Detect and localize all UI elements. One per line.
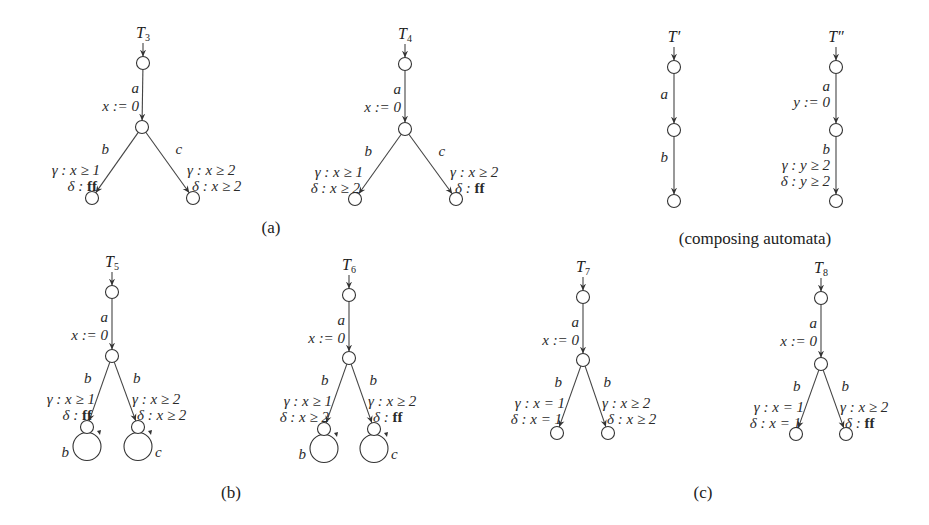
caption-a: (a) bbox=[262, 218, 281, 237]
T3-edge-right-action: c bbox=[176, 141, 183, 157]
T8-edge-left-action: b bbox=[793, 378, 801, 394]
T-double-prime-edge-1-label-2: δ : y ≥ 2 bbox=[781, 173, 831, 189]
T7-edge-right-gamma: γ : x ≥ 2 bbox=[602, 395, 651, 411]
T4-edge-left-gamma: γ : x ≥ 1 bbox=[315, 164, 363, 180]
T4-edge-left-action: b bbox=[365, 143, 373, 159]
T5-state-3-loop-arrow-icon bbox=[148, 430, 152, 435]
caption-b: (b) bbox=[221, 483, 241, 502]
T6-state-3-loop bbox=[360, 435, 388, 463]
T3-edge-a-action: a bbox=[132, 80, 140, 96]
T3-edge-right-gamma: γ : x ≥ 2 bbox=[187, 162, 236, 178]
T6-state-3-loop-label: c bbox=[391, 446, 398, 462]
caption-c: (c) bbox=[694, 483, 713, 502]
T-double-prime-title: T″ bbox=[828, 28, 844, 45]
T6-edge-right-gamma: γ : x ≥ 2 bbox=[368, 393, 417, 409]
T6-edge-left-delta: δ : x ≥ 2 bbox=[280, 409, 330, 425]
T3-state-1 bbox=[136, 121, 149, 134]
T6-state-2-loop-label: b bbox=[299, 446, 307, 462]
T6-state-0 bbox=[343, 289, 356, 302]
diagram-canvas: T3ax := 0bγ : x ≥ 1δ : ffcγ : x ≥ 2δ : x… bbox=[0, 0, 929, 525]
T4-edge-a-action: a bbox=[394, 81, 402, 97]
T5-edge-left-delta: δ : ff bbox=[63, 407, 93, 423]
T6-state-3-loop-arrow-icon bbox=[384, 432, 388, 437]
T6-state-1 bbox=[343, 352, 356, 365]
T8-edge-right-action: b bbox=[842, 378, 850, 394]
T5-state-1 bbox=[106, 350, 119, 363]
T-prime-state-2 bbox=[668, 195, 681, 208]
T-prime-edge-1-label-0: b bbox=[661, 149, 669, 165]
T-prime-state-1 bbox=[668, 124, 681, 137]
T8-title: T8 bbox=[814, 259, 828, 278]
T6-edge-a-reset: x := 0 bbox=[307, 330, 345, 346]
T7-edge-left-delta: δ : x = 1 bbox=[511, 411, 562, 427]
T7-state-3 bbox=[602, 427, 615, 440]
T8-edge-a-reset: x := 0 bbox=[779, 333, 817, 349]
T5-state-2-loop-label: b bbox=[62, 444, 70, 460]
T7-state-1 bbox=[577, 354, 590, 367]
T7-title: T7 bbox=[576, 258, 590, 277]
edges-layer bbox=[73, 43, 844, 463]
T6-edge-left-gamma: γ : x ≥ 1 bbox=[284, 393, 332, 409]
T5-state-0 bbox=[106, 286, 119, 299]
T7-edge-left-gamma: γ : x = 1 bbox=[515, 395, 565, 411]
T6-state-2-loop-arrow-icon bbox=[334, 432, 338, 437]
T5-edge-a-action: a bbox=[101, 309, 109, 325]
T6-edge-right-action: b bbox=[370, 372, 378, 388]
T4-edge-a-reset: x := 0 bbox=[363, 99, 401, 115]
T4-edge-right-delta: δ : ff bbox=[455, 180, 485, 196]
nodes-layer bbox=[81, 57, 853, 441]
T3-state-0 bbox=[137, 57, 150, 70]
T-double-prime-state-2 bbox=[830, 195, 843, 208]
T4-title: T4 bbox=[398, 25, 412, 44]
T-prime-title: T′ bbox=[668, 28, 681, 45]
T7-edge-right-delta: δ : x ≥ 2 bbox=[607, 411, 657, 427]
T5-edge-right-gamma: γ : x ≥ 2 bbox=[132, 391, 181, 407]
T5-edge-right-delta: δ : x ≥ 2 bbox=[137, 407, 187, 423]
T3-edge-a bbox=[142, 69, 143, 120]
T7-edge-a-action: a bbox=[572, 314, 580, 330]
T7-edge-left-action: b bbox=[555, 374, 563, 390]
T6-edge-left-action: b bbox=[321, 372, 329, 388]
T-double-prime-edge-1-label-0: b bbox=[823, 141, 831, 157]
T-double-prime-state-0 bbox=[830, 61, 843, 74]
T8-edge-left-delta: δ : x = 1 bbox=[750, 415, 801, 431]
T5-edge-right-action: b bbox=[133, 370, 141, 386]
T4-edge-right-action: c bbox=[439, 143, 446, 159]
T5-edge-left-gamma: γ : x ≥ 1 bbox=[47, 391, 95, 407]
T8-edge-a-action: a bbox=[810, 315, 818, 331]
T-prime-edge-0-label-0: a bbox=[661, 86, 669, 102]
T5-title: T5 bbox=[105, 253, 119, 272]
T5-state-3-loop-label: c bbox=[155, 444, 162, 460]
T4-edge-left-delta: δ : x ≥ 2 bbox=[311, 180, 361, 196]
T6-state-2-loop bbox=[310, 435, 338, 463]
T-double-prime-edge-1-label-1: γ : y ≥ 2 bbox=[782, 157, 831, 173]
T7-edge-right-action: b bbox=[604, 374, 612, 390]
T5-state-3-loop bbox=[124, 433, 152, 461]
T3-edge-left-delta: δ : ff bbox=[68, 178, 98, 194]
T4-edge-right-gamma: γ : x ≥ 2 bbox=[450, 164, 499, 180]
T5-state-2-loop-arrow-icon bbox=[97, 430, 101, 435]
T5-state-2-loop bbox=[73, 433, 101, 461]
T5-edge-a-reset: x := 0 bbox=[70, 327, 108, 343]
T4-state-0 bbox=[399, 58, 412, 71]
T5-edge-left-action: b bbox=[84, 370, 92, 386]
T6-edge-a-action: a bbox=[338, 312, 346, 328]
T4-edge-right bbox=[409, 134, 452, 193]
T8-state-0 bbox=[815, 292, 828, 305]
T8-edge-right-delta: δ : ff bbox=[845, 415, 875, 431]
T8-edge-right-gamma: γ : x ≥ 2 bbox=[840, 399, 889, 415]
T3-edge-a-reset: x := 0 bbox=[101, 98, 139, 114]
T3-title: T3 bbox=[136, 24, 150, 43]
T7-state-0 bbox=[577, 291, 590, 304]
T3-edge-right-delta: δ : x ≥ 2 bbox=[192, 178, 242, 194]
T7-state-2 bbox=[551, 427, 564, 440]
T6-edge-right-delta: δ : ff bbox=[373, 409, 403, 425]
T8-state-1 bbox=[815, 358, 828, 371]
T4-state-1 bbox=[399, 123, 412, 136]
T3-edge-left-gamma: γ : x ≥ 1 bbox=[52, 162, 100, 178]
caption-composing: (composing automata) bbox=[679, 229, 832, 248]
T8-edge-left-gamma: γ : x = 1 bbox=[754, 399, 804, 415]
T3-edge-left-action: b bbox=[102, 141, 110, 157]
T7-edge-a-reset: x := 0 bbox=[541, 332, 579, 348]
T-double-prime-edge-0-label-0: a bbox=[823, 78, 831, 94]
